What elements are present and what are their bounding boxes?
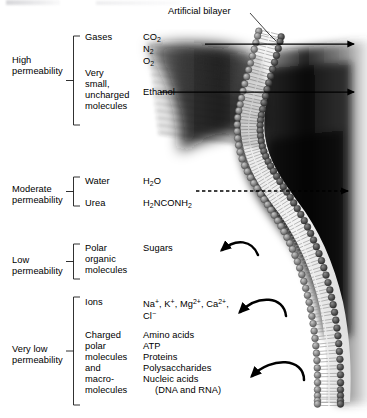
artificial-bilayer-label: Artificial bilayer [168, 6, 231, 16]
category-charged-3: molecules [85, 352, 127, 363]
category-charged-6: molecules [85, 385, 127, 396]
category-water: Water [85, 176, 110, 187]
category-urea: Urea [85, 198, 105, 209]
category-polar-organic-2: organic [85, 254, 116, 265]
permeability-figure: Artificial bilayer High permeability Gas… [0, 0, 367, 418]
permeability-label-high-line1: High [12, 55, 31, 65]
bracket-high-permeability [74, 36, 81, 125]
category-charged-5: macro- [85, 374, 114, 385]
permeability-label-high: High [12, 55, 31, 66]
arrow-ions-blocked [240, 300, 286, 316]
example-h2o: H2O [143, 176, 161, 189]
category-very-small-2: small, [85, 79, 110, 90]
permeability-label-moderate-2: permeability [12, 195, 63, 206]
category-very-small-4: molecules [85, 101, 127, 112]
permeability-label-low: Low [12, 255, 29, 266]
example-ions-line2: Cl− [143, 309, 156, 321]
permeability-label-moderate: Moderate [12, 184, 52, 195]
bracket-moderate-permeability [74, 177, 81, 206]
category-charged-4: and [85, 363, 101, 374]
category-charged-2: polar [85, 341, 106, 352]
example-ions-line1: Na+, K+, Mg2+, Ca2+, [143, 297, 229, 309]
example-polysaccharides: Polysaccharides [143, 363, 211, 374]
category-very-small-3: uncharged [85, 90, 129, 101]
example-proteins: Proteins [143, 352, 178, 363]
category-very-small-1: Very [85, 68, 104, 79]
permeability-label-high-line2: permeability [12, 66, 63, 76]
bracket-low-permeability [74, 244, 81, 279]
category-charged-1: Charged [85, 330, 121, 341]
permeability-label-verylow-2: permeability [12, 355, 63, 366]
category-polar-organic-1: Polar [85, 243, 107, 254]
arrow-macromolecules-blocked [252, 362, 304, 380]
example-ethanol: Ethanol [143, 87, 175, 98]
category-ions: Ions [85, 297, 103, 308]
arrow-sugars-blocked [222, 242, 258, 255]
example-dna-rna: (DNA and RNA) [155, 385, 221, 396]
permeability-label-verylow: Very low [12, 344, 48, 355]
example-nucleic-acids: Nucleic acids [143, 374, 198, 385]
category-polar-organic-3: molecules [85, 265, 127, 276]
example-urea-formula: H2NCONH2 [143, 198, 192, 211]
permeability-label-low-2: permeability [12, 266, 63, 277]
category-gases: Gases [85, 32, 112, 43]
permeability-label-high-2: permeability [12, 66, 63, 77]
example-o2: O2 [143, 56, 154, 69]
example-amino-acids: Amino acids [143, 330, 194, 341]
bracket-verylow-permeability [74, 297, 81, 405]
example-sugars: Sugars [143, 243, 173, 254]
example-atp: ATP [143, 341, 161, 352]
